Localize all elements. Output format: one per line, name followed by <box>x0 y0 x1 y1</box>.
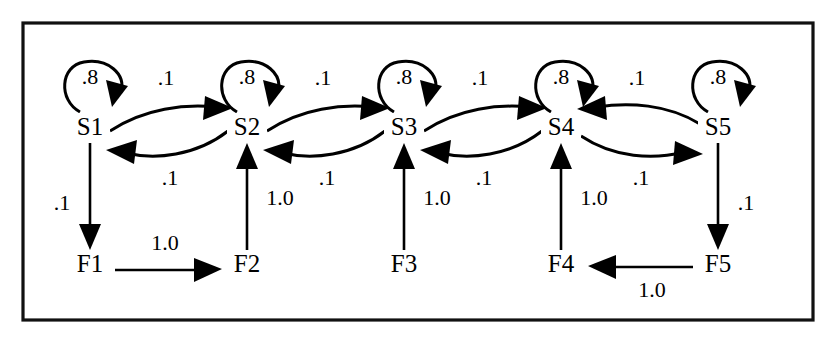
self-loop-s3: .8 <box>379 61 442 112</box>
transition-label-f5-f4: 1.0 <box>638 277 666 302</box>
transition-s3-s2: .1 <box>263 131 385 190</box>
state-node-s3[interactable]: S3 <box>391 113 417 140</box>
transition-f1-f2: 1.0 <box>115 230 222 282</box>
state-node-s5[interactable]: S5 <box>705 113 731 140</box>
transition-s4-s3: .1 <box>420 131 542 190</box>
transition-label-f2-s2: 1.0 <box>266 185 294 210</box>
state-node-f3[interactable]: F3 <box>391 250 417 277</box>
transition-s5-s4: .1 <box>577 65 700 124</box>
transition-s1-s2: .1 <box>110 65 233 131</box>
self-loop-s2: .8 <box>222 61 285 112</box>
transition-label-f1-f2: 1.0 <box>151 230 179 255</box>
transition-label-s3-s4: .1 <box>472 65 489 90</box>
arrowhead-f1-f2 <box>194 258 222 282</box>
self-loop-label-s1: .8 <box>82 64 99 89</box>
self-loop-label-s5: .8 <box>710 64 727 89</box>
arrowhead-loop-s5 <box>734 80 756 107</box>
transition-label-s5-s4: .1 <box>629 65 646 90</box>
transition-label-s3-s2: .1 <box>319 165 336 190</box>
transition-s4-s5: .1 <box>581 136 703 190</box>
diagram-canvas: .8 .8 .8 .8 .8 .1 <box>0 0 836 338</box>
arrowhead-f3-s3 <box>393 143 415 169</box>
state-node-f1[interactable]: F1 <box>77 250 103 277</box>
self-loop-s1: .8 <box>65 61 128 112</box>
arrowhead-s4-s5 <box>673 141 703 165</box>
arrowhead-f5-f4 <box>588 255 616 279</box>
transition-label-f4-s4: 1.0 <box>580 185 608 210</box>
arrowhead-s4-s3 <box>420 140 451 164</box>
arrowhead-s3-s2 <box>263 140 294 164</box>
transition-f4-s4: 1.0 <box>550 143 608 250</box>
self-loop-label-s2: .8 <box>239 64 256 89</box>
transition-s2-s1: .1 <box>106 131 228 190</box>
transition-f5-f4: 1.0 <box>588 255 693 302</box>
transition-label-s5-f5: .1 <box>738 190 755 215</box>
transition-label-s2-s3: .1 <box>315 65 332 90</box>
state-transition-diagram: .8 .8 .8 .8 .8 .1 <box>0 0 836 338</box>
arrowhead-loop-s1 <box>106 80 128 107</box>
transition-s5-f5: .1 <box>707 143 754 250</box>
self-loop-s5: .8 <box>693 61 756 112</box>
state-node-f2[interactable]: F2 <box>234 250 260 277</box>
self-loop-label-s3: .8 <box>396 64 413 89</box>
transition-s1-f1: .1 <box>54 143 101 250</box>
arrowhead-s1-f1 <box>79 224 101 250</box>
arrowhead-loop-s3 <box>420 80 442 107</box>
state-node-s2[interactable]: S2 <box>234 113 260 140</box>
transition-label-f3-s3: 1.0 <box>423 185 451 210</box>
state-node-f4[interactable]: F4 <box>548 250 575 277</box>
state-nodes-top: S1 S2 S3 S4 S5 <box>70 113 738 143</box>
self-loop-label-s4: .8 <box>553 64 570 89</box>
arrowhead-f2-s2 <box>236 143 258 169</box>
state-node-s1[interactable]: S1 <box>77 113 103 140</box>
transition-label-s1-f1: .1 <box>54 190 71 215</box>
transition-s2-s3: .1 <box>267 65 390 131</box>
state-node-s4[interactable]: S4 <box>548 113 575 140</box>
transition-label-s4-s5: .1 <box>633 165 650 190</box>
arrowhead-s5-f5 <box>707 224 729 250</box>
transition-label-s2-s1: .1 <box>162 165 179 190</box>
state-node-f5[interactable]: F5 <box>705 250 731 277</box>
arrowhead-f4-s4 <box>550 143 572 169</box>
transition-label-s1-s2: .1 <box>158 65 175 90</box>
arrowhead-loop-s2 <box>263 80 285 107</box>
arrowhead-s2-s1 <box>106 140 137 164</box>
transition-s3-s4: .1 <box>424 65 547 131</box>
transition-label-s4-s3: .1 <box>476 165 493 190</box>
